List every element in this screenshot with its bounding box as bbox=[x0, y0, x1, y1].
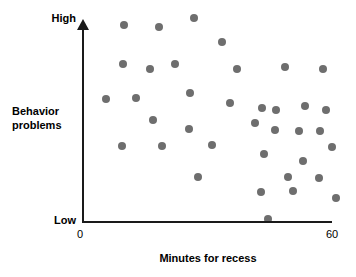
y-axis-low-label: Low bbox=[24, 214, 76, 226]
data-point bbox=[171, 60, 179, 68]
y-axis-title-line-2: problems bbox=[12, 118, 62, 132]
data-point bbox=[299, 157, 307, 165]
data-point bbox=[233, 65, 241, 73]
data-point bbox=[190, 14, 198, 22]
data-point bbox=[301, 102, 309, 110]
data-point bbox=[281, 63, 289, 71]
data-point bbox=[295, 127, 303, 135]
scatter-plot-figure: High Low Behavior problems 0 60 Minutes … bbox=[0, 0, 356, 277]
data-point bbox=[332, 194, 340, 202]
data-point bbox=[155, 23, 163, 31]
data-point bbox=[319, 65, 327, 73]
x-axis-line bbox=[82, 221, 332, 223]
y-axis-title-line-1: Behavior bbox=[12, 104, 62, 118]
data-point bbox=[328, 143, 336, 151]
data-point bbox=[218, 38, 226, 46]
data-point bbox=[251, 119, 259, 127]
data-point bbox=[258, 104, 266, 112]
data-point bbox=[316, 127, 324, 135]
data-point bbox=[260, 150, 268, 158]
data-point bbox=[185, 125, 193, 133]
y-axis-arrow-icon bbox=[77, 19, 89, 30]
data-point bbox=[118, 142, 126, 150]
data-point bbox=[158, 142, 166, 150]
data-point bbox=[120, 21, 128, 29]
x-axis-tick-max: 60 bbox=[316, 228, 348, 240]
data-point bbox=[271, 126, 279, 134]
data-point bbox=[284, 173, 292, 181]
data-point bbox=[119, 60, 127, 68]
data-point bbox=[186, 89, 194, 97]
data-point bbox=[226, 99, 234, 107]
y-axis-high-label: High bbox=[24, 12, 76, 24]
plot-area bbox=[83, 22, 332, 222]
x-axis-tick-min: 0 bbox=[68, 228, 92, 240]
data-point bbox=[315, 174, 323, 182]
y-axis-line bbox=[82, 28, 84, 223]
x-axis-title: Minutes for recess bbox=[83, 252, 333, 264]
data-point bbox=[208, 141, 216, 149]
data-point bbox=[102, 95, 110, 103]
y-axis-title: Behavior problems bbox=[12, 104, 62, 132]
data-point bbox=[272, 106, 280, 114]
data-point bbox=[146, 65, 154, 73]
data-point bbox=[194, 173, 202, 181]
data-point bbox=[149, 116, 157, 124]
data-point bbox=[257, 188, 265, 196]
data-point bbox=[289, 187, 297, 195]
data-point bbox=[132, 94, 140, 102]
data-point bbox=[322, 106, 330, 114]
